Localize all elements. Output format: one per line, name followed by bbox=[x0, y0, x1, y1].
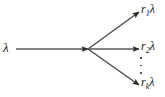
ellipsis-dot bbox=[140, 57, 142, 59]
ellipsis-dot bbox=[140, 65, 142, 67]
vertical-ellipsis-icon bbox=[138, 57, 144, 74]
input-rate-label: λ bbox=[3, 41, 9, 54]
output-arrow-1 bbox=[88, 12, 139, 49]
output-rate-label-1: r1λ bbox=[141, 3, 155, 18]
output-1-rate: λ bbox=[150, 2, 155, 16]
output-arrow-k bbox=[88, 49, 139, 85]
output-2-rate: λ bbox=[150, 39, 155, 53]
poisson-splitting-diagram: λ r1λ r2λ rkλ bbox=[0, 0, 165, 97]
output-rate-label-k: rkλ bbox=[141, 76, 155, 91]
output-k-rate: λ bbox=[149, 75, 154, 89]
output-rate-label-2: r2λ bbox=[141, 40, 155, 55]
input-rate-text: λ bbox=[3, 40, 9, 55]
ellipsis-dot bbox=[140, 72, 142, 74]
